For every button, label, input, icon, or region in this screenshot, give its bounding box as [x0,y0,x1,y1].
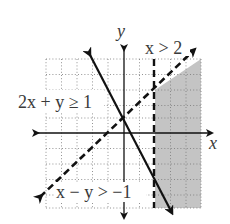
label-x-minus-y: x − y > −1 [56,182,131,202]
label-x-gt-2: x > 2 [145,38,182,58]
inequality-graph: 2x + y ≥ 1 x > 2 x − y > −1 y x [0,0,230,224]
y-axis-label: y [115,21,125,41]
x-axis-label: x [208,133,217,153]
label-2x-plus-y: 2x + y ≥ 1 [18,92,92,112]
